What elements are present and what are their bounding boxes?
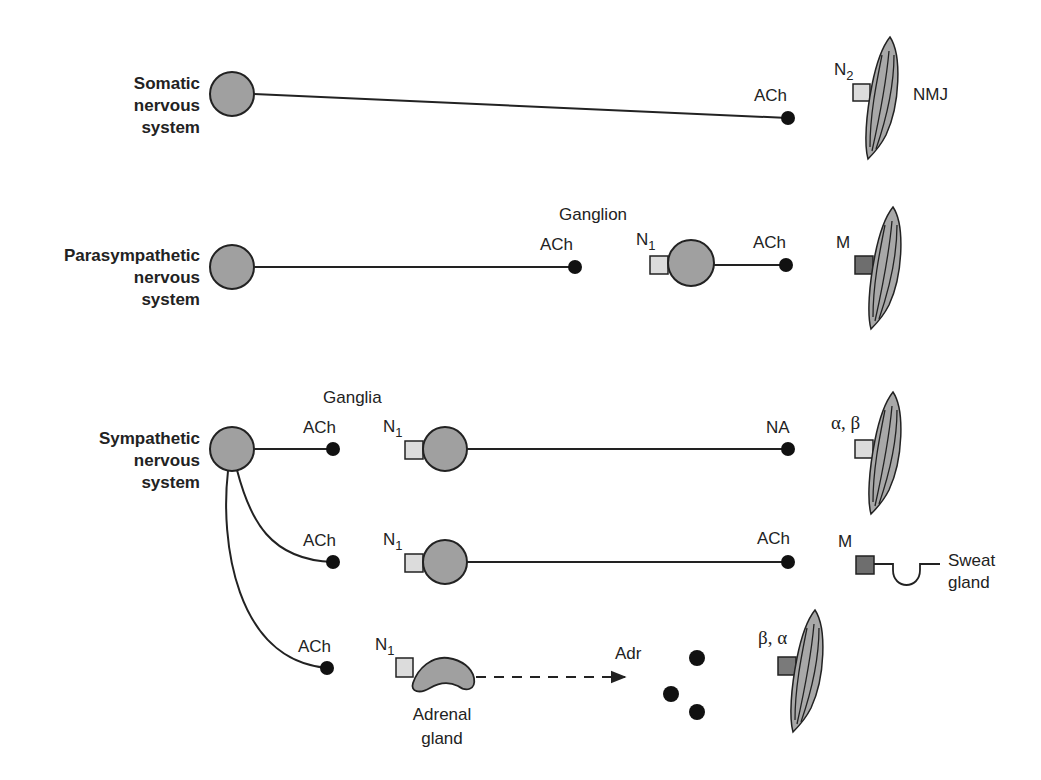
sweat-gland-label: Sweat gland <box>948 550 995 594</box>
somatic-pathway <box>210 37 898 159</box>
somatic-system-label: Somatic nervous system <box>0 73 200 139</box>
sympathetic-row3-ganglion-receptor: N1 <box>375 636 395 653</box>
sympathetic-row2-post-transmitter: ACh <box>757 530 790 547</box>
sympathetic-row3-pre-transmitter: ACh <box>298 638 331 655</box>
smooth-muscle-icon <box>869 207 901 329</box>
parasympathetic-pre-transmitter-label: ACh <box>540 236 573 253</box>
parasympathetic-ganglion-receptor-label: N1 <box>636 231 656 248</box>
somatic-receptor-label: N2 <box>834 61 854 78</box>
adrenal-gland-label: Adrenal gland <box>397 703 487 751</box>
parasympathetic-pre-terminal <box>568 260 582 274</box>
sympathetic-row1-post-transmitter: NA <box>766 419 790 436</box>
somatic-cell-body <box>210 72 254 116</box>
parasympathetic-pathway <box>210 207 901 329</box>
sweat-gland-icon <box>874 564 940 585</box>
somatic-transmitter-label: ACh <box>754 87 787 104</box>
sympathetic-row1-target-receptor: α, β <box>831 413 860 432</box>
parasympathetic-post-terminal <box>779 258 793 272</box>
parasympathetic-ganglion <box>668 240 714 286</box>
sympathetic-row1-pre-transmitter: ACh <box>303 419 336 436</box>
sympathetic-cell-body <box>210 427 254 471</box>
sympathetic-row1-ganglion-receptor: N1 <box>383 418 403 435</box>
parasympathetic-m-receptor <box>855 256 873 274</box>
sympathetic-row2-ganglion-receptor: N1 <box>383 531 403 548</box>
sympathetic-system-label: Sympathetic nervous system <box>0 428 200 494</box>
sympathetic-pathway <box>210 392 940 732</box>
ganglion-label: Ganglion <box>559 206 627 223</box>
parasympathetic-post-transmitter-label: ACh <box>753 234 786 251</box>
parasympathetic-system-label: Parasympathetic nervous system <box>0 245 200 311</box>
somatic-terminal <box>781 111 795 125</box>
ganglia-label: Ganglia <box>323 389 382 406</box>
nmj-label: NMJ <box>913 86 948 103</box>
sympathetic-row3-target-receptor: β, α <box>758 628 787 647</box>
parasympathetic-n1-receptor <box>650 256 668 274</box>
skeletal-muscle-icon <box>866 37 898 159</box>
somatic-n2-receptor <box>853 84 870 101</box>
sympathetic-row2-pre-transmitter: ACh <box>303 532 336 549</box>
adrenal-gland-icon <box>412 658 474 692</box>
parasympathetic-target-receptor-label: M <box>836 234 850 251</box>
sympathetic-row2-target-receptor: M <box>838 533 852 550</box>
parasympathetic-cell-body <box>210 245 254 289</box>
adrenaline-label: Adr <box>615 645 641 662</box>
